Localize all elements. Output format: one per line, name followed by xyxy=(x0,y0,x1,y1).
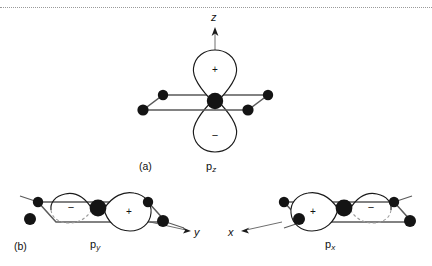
py-minus-lobe: − xyxy=(51,194,92,223)
px-orbital-label: px xyxy=(325,238,335,252)
py-plus-lobe: + xyxy=(104,193,151,231)
central-metal-atom xyxy=(90,200,107,217)
py-minus-sign: − xyxy=(68,201,74,213)
z-axis-label: z xyxy=(211,11,217,23)
ligand-atom xyxy=(157,215,169,227)
ligand-atom xyxy=(137,104,148,115)
central-metal-atom xyxy=(207,93,223,109)
p-orbital-figure: + − − + xyxy=(0,0,432,266)
panel-pz: + − xyxy=(137,27,273,152)
ligand-atom xyxy=(24,213,36,225)
ligand-atom xyxy=(242,104,253,115)
ligand-atom xyxy=(33,197,43,207)
y-axis-label: y xyxy=(194,226,200,238)
panel-b-tag: (b) xyxy=(14,240,27,252)
panel-px: + − xyxy=(241,193,416,234)
panel-py: − + xyxy=(20,193,191,234)
ligand-atom xyxy=(279,197,289,207)
pz-upper-sign: + xyxy=(212,64,218,75)
panel-a-tag: (a) xyxy=(139,160,152,172)
ligand-atom xyxy=(158,90,168,100)
central-metal-atom xyxy=(336,200,353,217)
py-orbital-label: py xyxy=(90,238,100,252)
ligand-atom xyxy=(389,197,399,207)
px-plus-sign: + xyxy=(310,206,316,217)
x-axis-label: x xyxy=(228,226,234,238)
pz-orbital-label: pz xyxy=(206,160,216,174)
py-plus-sign: + xyxy=(126,206,132,217)
pz-lower-sign: − xyxy=(212,129,218,141)
px-minus-lobe: − xyxy=(350,194,391,223)
ligand-atom xyxy=(404,215,416,227)
ligand-atom xyxy=(293,213,305,225)
px-minus-sign: − xyxy=(368,201,374,213)
ligand-atom xyxy=(263,90,273,100)
px-plus-lobe: + xyxy=(291,193,338,231)
ligand-atom xyxy=(143,197,153,207)
x-axis xyxy=(241,222,282,233)
